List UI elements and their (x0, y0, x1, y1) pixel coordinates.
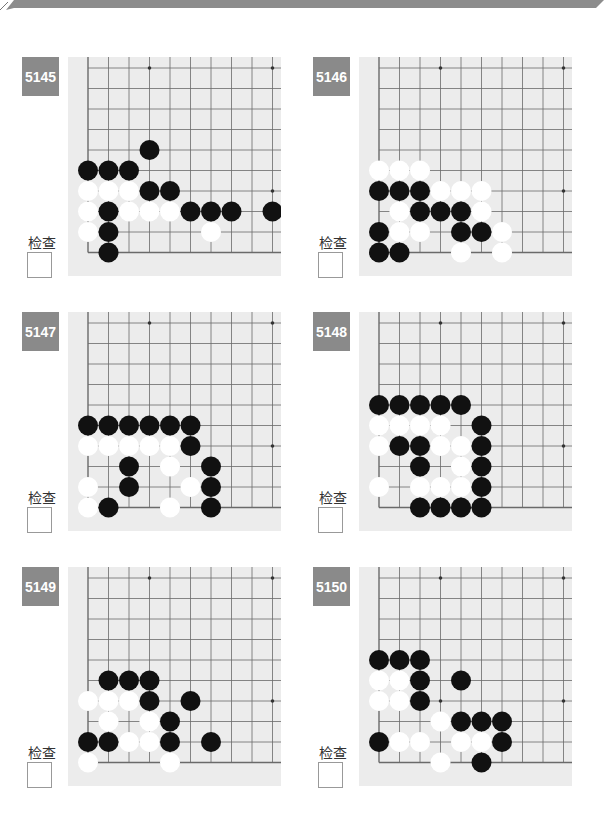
black-stone (99, 416, 119, 436)
white-stone (119, 732, 139, 752)
white-stone (119, 202, 139, 222)
check-checkbox[interactable] (318, 507, 343, 533)
white-stone (99, 436, 119, 456)
black-stone (99, 498, 119, 518)
black-stone (99, 671, 119, 691)
white-stone (78, 181, 98, 201)
check-checkbox[interactable] (318, 762, 343, 788)
black-stone (390, 181, 410, 201)
black-stone (410, 181, 430, 201)
black-stone (472, 712, 492, 732)
go-board[interactable] (68, 312, 281, 531)
white-stone (140, 436, 160, 456)
black-stone (263, 202, 282, 222)
black-stone (369, 395, 389, 415)
black-stone (201, 498, 221, 518)
white-stone (410, 477, 430, 497)
white-stone (369, 477, 389, 497)
white-stone (451, 732, 471, 752)
check-label: 检查 (315, 742, 351, 762)
black-stone (140, 181, 160, 201)
white-stone (390, 671, 410, 691)
white-stone (369, 436, 389, 456)
white-stone (160, 498, 180, 518)
white-stone (119, 691, 139, 711)
check-checkbox[interactable] (27, 507, 52, 533)
black-stone (160, 712, 180, 732)
white-stone (451, 243, 471, 263)
black-stone (369, 650, 389, 670)
white-stone (431, 416, 451, 436)
white-stone (390, 416, 410, 436)
white-stone (410, 416, 430, 436)
white-stone (451, 436, 471, 456)
white-stone (472, 732, 492, 752)
go-board[interactable] (359, 57, 572, 276)
white-stone (140, 202, 160, 222)
black-stone (472, 477, 492, 497)
white-stone (99, 691, 119, 711)
check-label: 检查 (315, 232, 351, 252)
black-stone (119, 477, 139, 497)
white-stone (451, 457, 471, 477)
check-checkbox[interactable] (27, 762, 52, 788)
problem-5150: 5150 检查 (313, 567, 575, 789)
problem-number: 5150 (313, 567, 350, 606)
white-stone (390, 222, 410, 242)
white-stone (451, 181, 471, 201)
black-stone (181, 691, 201, 711)
white-stone (431, 753, 451, 773)
black-stone (472, 416, 492, 436)
white-stone (160, 457, 180, 477)
black-stone (410, 457, 430, 477)
black-stone (410, 498, 430, 518)
white-stone (78, 498, 98, 518)
black-stone (390, 650, 410, 670)
white-stone (451, 477, 471, 497)
black-stone (410, 202, 430, 222)
black-stone (140, 416, 160, 436)
black-stone (451, 671, 471, 691)
white-stone (492, 243, 512, 263)
check-checkbox[interactable] (318, 252, 343, 278)
black-stone (99, 243, 119, 263)
white-stone (78, 691, 98, 711)
black-stone (472, 498, 492, 518)
black-stone (410, 691, 430, 711)
black-stone (492, 712, 512, 732)
white-stone (431, 181, 451, 201)
go-board[interactable] (359, 312, 572, 531)
go-board[interactable] (68, 567, 281, 786)
black-stone (410, 395, 430, 415)
white-stone (99, 712, 119, 732)
white-stone (160, 202, 180, 222)
black-stone (472, 457, 492, 477)
black-stone (492, 732, 512, 752)
white-stone (119, 181, 139, 201)
black-stone (431, 202, 451, 222)
black-stone (160, 732, 180, 752)
go-board[interactable] (359, 567, 572, 786)
black-stone (119, 457, 139, 477)
white-stone (119, 436, 139, 456)
black-stone (222, 202, 242, 222)
white-stone (78, 477, 98, 497)
white-stone (78, 436, 98, 456)
white-stone (181, 477, 201, 497)
problem-number: 5148 (313, 312, 350, 351)
white-stone (369, 691, 389, 711)
white-stone (410, 222, 430, 242)
black-stone (140, 691, 160, 711)
go-board[interactable] (68, 57, 281, 276)
black-stone (99, 202, 119, 222)
black-stone (140, 671, 160, 691)
check-label: 检查 (24, 487, 60, 507)
black-stone (390, 395, 410, 415)
check-checkbox[interactable] (27, 252, 52, 278)
white-stone (431, 712, 451, 732)
black-stone (119, 671, 139, 691)
problem-number: 5145 (22, 57, 59, 96)
black-stone (160, 416, 180, 436)
black-stone (369, 181, 389, 201)
problem-5147: 5147 检查 (22, 312, 284, 534)
